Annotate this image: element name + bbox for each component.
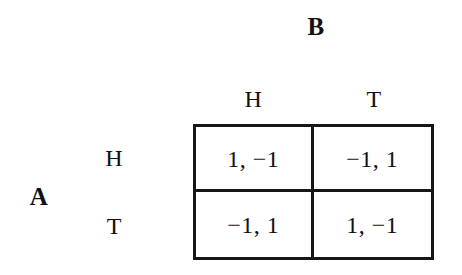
column-header-row: H T [193, 80, 434, 118]
column-header-t: T [314, 80, 435, 118]
row-header-h: H [92, 124, 136, 192]
payoff-cell-t-t: 1, −1 [314, 192, 432, 257]
payoff-matrix-figure: B A H T H T 1, −1 −1, 1 −1, 1 1, −1 [0, 0, 462, 275]
payoff-cell-h-h: 1, −1 [196, 127, 314, 192]
payoff-cell-h-t: −1, 1 [314, 127, 432, 192]
column-header-h: H [193, 80, 314, 118]
payoff-matrix-table: 1, −1 −1, 1 −1, 1 1, −1 [193, 124, 434, 260]
row-header-column: H T [92, 124, 136, 260]
column-player-label: B [288, 10, 344, 44]
payoff-cell-t-h: −1, 1 [196, 192, 314, 257]
row-player-label: A [14, 180, 64, 214]
row-header-t: T [92, 192, 136, 260]
